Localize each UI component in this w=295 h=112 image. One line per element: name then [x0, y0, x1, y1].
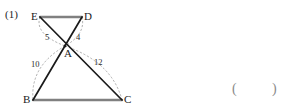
vertex-label-D: D: [84, 11, 92, 22]
vertex-label-A: A: [64, 48, 72, 59]
vertex-label-C: C: [124, 94, 131, 105]
segment-DB: [33, 17, 82, 100]
vertex-label-E: E: [31, 11, 38, 22]
geometry-figure: [0, 0, 295, 112]
vertex-label-B: B: [23, 94, 30, 105]
answer-paren-close: ): [272, 82, 277, 96]
dashed-arc-EA: [39, 17, 65, 46]
measure-label-BA: 10: [31, 60, 40, 69]
measure-label-CA: 12: [94, 58, 103, 67]
measure-label-EA: 5: [45, 33, 49, 42]
measure-label-DA: 4: [76, 33, 80, 42]
worksheet-page: (1) E D A B C 5 4 10 12 ( ): [0, 0, 295, 112]
answer-paren-open: (: [232, 82, 237, 96]
